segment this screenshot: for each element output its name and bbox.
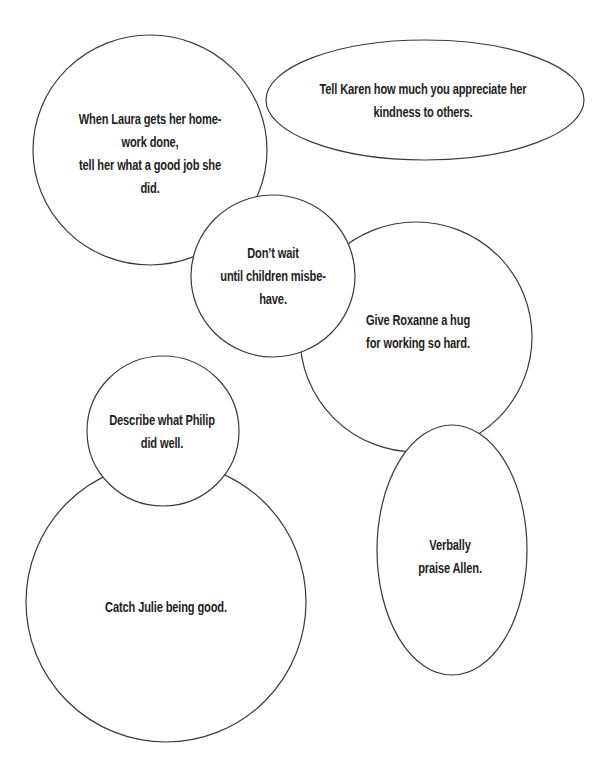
bubble-text-line: When Laura gets her home- — [79, 107, 221, 130]
bubble-text-line: Catch Julie being good. — [105, 595, 227, 618]
bubble-allen-text: Verbally praise Allen. — [407, 533, 493, 579]
bubble-philip-text: Describe what Philip did well. — [91, 408, 234, 454]
bubble-text-line: kindness to others. — [320, 100, 527, 123]
bubble-text-line: Describe what Philip — [109, 408, 215, 431]
bubble-text-line: praise Allen. — [418, 556, 482, 579]
bubble-text-line: Don’t wait — [220, 241, 325, 264]
bubble-text-line: did. — [79, 176, 221, 199]
bubble-laura-text: When Laura gets her home- work done, tel… — [54, 107, 247, 199]
bubble-karen-text: Tell Karen how much you appreciate her k… — [283, 77, 563, 123]
bubble-text-line: work done, — [79, 130, 221, 153]
bubble-text-line: Give Roxanne a hug — [366, 308, 470, 331]
bubble-text-line: until children misbe- — [220, 264, 325, 287]
bubble-text-line: tell her what a good job she — [79, 153, 221, 176]
bubble-text-line: did well. — [109, 431, 215, 454]
bubble-text-line: for working so hard. — [366, 331, 470, 354]
bubble-text-line: Tell Karen how much you appreciate her — [320, 77, 527, 100]
bubble-text-line: have. — [220, 287, 325, 310]
bubble-dont-wait-text: Don’t wait until children misbe- have. — [202, 241, 344, 310]
bubble-julie-text: Catch Julie being good. — [84, 595, 249, 618]
bubble-text-line: Verbally — [418, 533, 482, 556]
bubble-roxanne-text: Give Roxanne a hug for working so hard. — [348, 308, 489, 354]
